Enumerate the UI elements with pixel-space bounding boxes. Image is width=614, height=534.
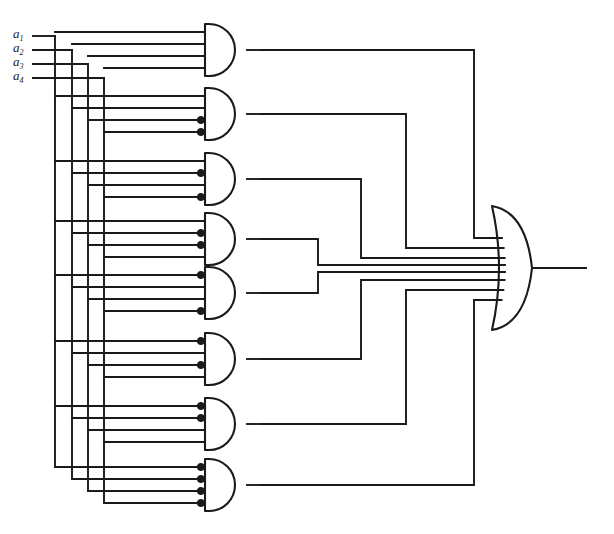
circuit-canvas (0, 0, 614, 534)
and-gate-2-inversion-bubble-3 (197, 116, 204, 123)
and-gate-7-inversion-bubble-2 (197, 414, 204, 421)
and-gate-1-to-or-route (261, 50, 502, 238)
and-gate-8-body (205, 459, 235, 511)
and-gate-4-inversion-bubble-2 (197, 229, 204, 236)
and-gate-2-inversion-bubble-4 (197, 128, 204, 135)
and-gate-5-inversion-bubble-1 (197, 271, 204, 278)
and-gate-4-body (205, 213, 235, 265)
gate-layer (205, 24, 532, 511)
and-gate-3-to-or-route (261, 179, 505, 258)
and-gate-4-inversion-bubble-3 (197, 241, 204, 248)
and-gate-7-body (205, 398, 235, 450)
and-gate-5-body (205, 267, 235, 319)
or-gate-body (492, 206, 532, 330)
wire-layer (33, 32, 586, 503)
and-gate-7-to-or-route (261, 290, 503, 424)
and-gate-3-inversion-bubble-2 (197, 169, 204, 176)
and-gate-3-inversion-bubble-4 (197, 193, 204, 200)
and-gate-6-to-or-route (261, 280, 505, 359)
inversion-bubble-layer (197, 116, 204, 506)
and-gate-8-inversion-bubble-2 (197, 475, 204, 482)
and-gate-6-inversion-bubble-3 (197, 361, 204, 368)
and-gate-8-inversion-bubble-1 (197, 463, 204, 470)
and-gate-2-body (205, 88, 235, 140)
and-gate-8-to-or-route (261, 300, 502, 485)
and-gate-6-inversion-bubble-1 (197, 337, 204, 344)
and-gate-4-to-or-route (261, 239, 505, 265)
and-gate-5-inversion-bubble-4 (197, 307, 204, 314)
and-gate-6-body (205, 333, 235, 385)
and-gate-8-inversion-bubble-4 (197, 499, 204, 506)
and-gate-8-inversion-bubble-3 (197, 487, 204, 494)
and-gate-1-body (205, 24, 235, 76)
and-gate-2-to-or-route (261, 114, 504, 248)
and-gate-7-inversion-bubble-1 (197, 402, 204, 409)
and-gate-3-body (205, 153, 235, 205)
logic-circuit-diagram: a1 a2 a3 a4 (0, 0, 614, 534)
